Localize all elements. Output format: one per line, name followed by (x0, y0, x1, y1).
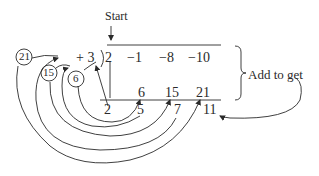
product-1: 6 (138, 86, 145, 100)
coefficient-2: −1 (127, 51, 142, 65)
synthetic-division-diagram: Start + 3 2 −1 −8 −10 6 15 21 2 5 7 11 2… (0, 0, 319, 176)
result-3: 7 (174, 103, 181, 117)
result-1: 2 (104, 103, 111, 117)
division-bracket (101, 50, 104, 67)
start-label: Start (105, 10, 128, 22)
circled-21: 21 (19, 51, 30, 62)
right-brace (235, 46, 246, 100)
product-2: 15 (165, 86, 179, 100)
product-3: 21 (196, 86, 210, 100)
divisor: + 3 (76, 51, 94, 65)
circled-15: 15 (43, 67, 54, 78)
diagram-lines (0, 0, 319, 176)
coefficient-4: −10 (188, 51, 210, 65)
circled-6: 6 (73, 73, 79, 84)
coefficient-1: 2 (105, 51, 112, 65)
add-to-get-label: Add to get (248, 68, 303, 81)
result-2: 5 (137, 103, 144, 117)
add-arrow (220, 78, 301, 118)
coefficient-3: −8 (159, 51, 174, 65)
result-4: 11 (203, 103, 216, 117)
